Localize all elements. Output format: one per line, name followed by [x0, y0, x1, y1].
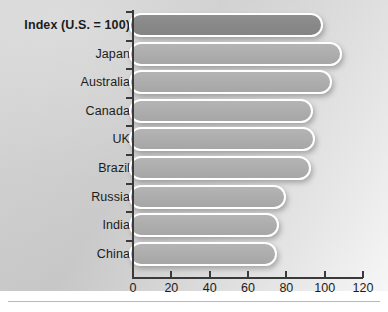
bar-track: [133, 155, 388, 181]
bar-value: [129, 99, 313, 123]
x-axis-tick: [132, 271, 134, 278]
bar-row: Russia: [0, 184, 388, 210]
x-axis-tick-label: 100: [314, 281, 335, 295]
bar-row: Japan: [0, 41, 388, 67]
bar-row: China: [0, 241, 388, 267]
bar-row: Brazil: [0, 155, 388, 181]
bar-track: [133, 12, 388, 38]
bar-category-label: Japan: [95, 47, 130, 61]
bar-category-label: China: [97, 247, 130, 261]
y-axis-tick: [126, 40, 133, 42]
bar-value: [129, 70, 332, 94]
chart-screenshot: Index (U.S. = 100) Japan Australia: [0, 0, 388, 312]
y-axis-tick: [126, 11, 133, 13]
bar-value: [129, 156, 311, 180]
bar-value: [129, 242, 277, 266]
bar-track: [133, 41, 388, 67]
x-axis-tick-label: 120: [353, 281, 374, 295]
bar-category-label: Brazil: [98, 161, 130, 175]
bar-track: [133, 69, 388, 95]
x-axis-tick: [362, 271, 364, 278]
bar-row: India: [0, 212, 388, 238]
y-axis-tick: [126, 240, 133, 242]
bar-row: Index (U.S. = 100): [0, 12, 388, 38]
bar-category-label: UK: [112, 132, 130, 146]
y-axis-tick: [126, 68, 133, 70]
bar-value: [129, 213, 279, 237]
x-axis-tick-label: 20: [164, 281, 178, 295]
bar-category-label: Index (U.S. = 100): [24, 18, 130, 32]
x-axis-tick-label: 40: [203, 281, 217, 295]
bar-category-label: Canada: [86, 104, 130, 118]
bar-category-label: Russia: [91, 190, 130, 204]
x-axis-tick: [170, 271, 172, 278]
y-axis-tick: [126, 183, 133, 185]
x-axis-tick-label: 80: [279, 281, 293, 295]
bar-chart-plot-area: Index (U.S. = 100) Japan Australia: [0, 0, 388, 291]
y-axis-tick: [126, 125, 133, 127]
bar-row: Canada: [0, 98, 388, 124]
y-axis-tick: [126, 211, 133, 213]
x-axis-tick-label: 60: [241, 281, 255, 295]
bar-value: [129, 42, 342, 66]
bar-category-label: Australia: [80, 75, 130, 89]
x-axis-tick: [209, 271, 211, 278]
bar-row: UK: [0, 126, 388, 152]
bar-category-label: India: [102, 218, 130, 232]
x-axis-tick: [285, 271, 287, 278]
bar-value: [129, 185, 286, 209]
y-axis-tick: [126, 154, 133, 156]
y-axis-tick: [126, 97, 133, 99]
x-axis-tick-label: 0: [130, 281, 137, 295]
bar-value: [129, 127, 315, 151]
bar-track: [133, 126, 388, 152]
x-axis-tick: [324, 271, 326, 278]
bar-track: [133, 241, 388, 267]
bar-row: Australia: [0, 69, 388, 95]
bar-value: [129, 13, 323, 37]
x-axis-tick: [247, 271, 249, 278]
bar-track: [133, 212, 388, 238]
bar-rows: Index (U.S. = 100) Japan Australia: [0, 12, 388, 269]
y-axis-line: [132, 10, 134, 278]
horizontal-rule: [8, 301, 380, 302]
bar-track: [133, 98, 388, 124]
bar-track: [133, 184, 388, 210]
